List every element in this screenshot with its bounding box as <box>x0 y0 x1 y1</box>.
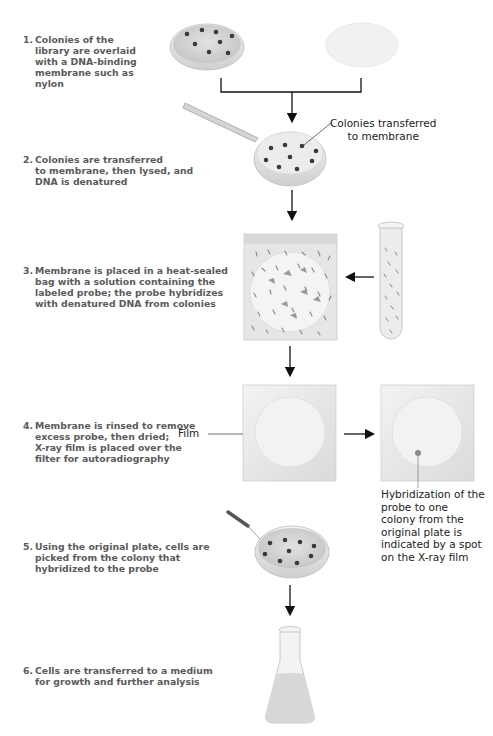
merge-arrow <box>221 78 361 118</box>
step-3: 3. Membrane is placed in a heat-sealed b… <box>23 265 228 309</box>
flask-icon <box>266 627 315 724</box>
step-2: 2. Colonies are transferred to membrane,… <box>23 154 193 187</box>
step-5: 5. Using the original plate, cells are p… <box>23 541 209 574</box>
step-1-number: 1. <box>23 34 33 45</box>
hybridization-spot <box>415 450 421 456</box>
step-6: 6. Cells are transferred to a medium for… <box>23 665 213 687</box>
diagram-artwork <box>0 0 493 736</box>
hybridization-label: Hybridization of the probe to one colony… <box>381 488 485 563</box>
step-6-number: 6. <box>23 665 33 676</box>
step-4-text: Membrane is rinsed to remove excess prob… <box>23 420 195 464</box>
step-1: 1. Colonies of the library are overlaid … <box>23 34 137 89</box>
heat-sealed-bag-icon <box>244 234 337 340</box>
step-3-text: Membrane is placed in a heat-sealed bag … <box>23 265 228 309</box>
probe-test-tube-icon <box>378 222 404 339</box>
petri-dish-icon <box>170 24 244 70</box>
step-6-text: Cells are transferred to a medium for gr… <box>23 665 213 687</box>
step-4: 4. Membrane is rinsed to remove excess p… <box>23 420 195 464</box>
step-5-number: 5. <box>23 541 33 552</box>
original-plate-icon <box>255 526 329 578</box>
step-3-number: 3. <box>23 265 33 276</box>
step-2-text: Colonies are transferred to membrane, th… <box>23 154 193 187</box>
step-4-number: 4. <box>23 420 33 431</box>
step-2-number: 2. <box>23 154 33 165</box>
forceps-icon <box>183 103 258 142</box>
step-1-text: Colonies of the library are overlaid wit… <box>23 34 137 89</box>
film-icon <box>243 385 336 481</box>
colonies-transferred-label: Colonies transferred to membrane <box>330 117 436 142</box>
film-label: Film <box>178 427 199 440</box>
step-5-text: Using the original plate, cells are pick… <box>23 541 209 574</box>
membrane-on-plate-icon <box>254 132 326 186</box>
membrane-icon <box>326 23 398 67</box>
autoradiograph-icon <box>381 385 474 488</box>
